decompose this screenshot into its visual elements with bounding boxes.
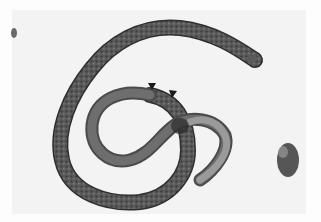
nematode-illustration bbox=[0, 0, 321, 222]
image-frame bbox=[0, 0, 321, 222]
debris-spot bbox=[11, 28, 17, 38]
worm-head bbox=[246, 55, 258, 63]
body-overlap bbox=[171, 118, 189, 134]
